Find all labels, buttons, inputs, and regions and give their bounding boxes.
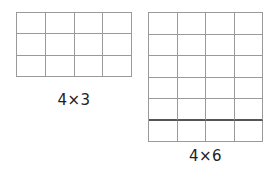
- grid-cell: [149, 56, 178, 78]
- grid-cell: [178, 35, 207, 57]
- grid-4x3-label: 4×3: [16, 91, 132, 109]
- grid-cell: [103, 34, 132, 55]
- grid-cell: [206, 35, 235, 57]
- grid-cell: [206, 13, 235, 35]
- grid-cell: [235, 13, 264, 35]
- grid-cell: [178, 99, 207, 121]
- grid-cell: [178, 78, 207, 100]
- grid-4x6-label: 4×6: [148, 147, 263, 165]
- grid-4x6: [148, 12, 263, 142]
- grid-cell: [46, 34, 75, 55]
- grid-cell: [235, 56, 264, 78]
- grid-cell: [75, 13, 104, 34]
- grid-cell: [46, 13, 75, 34]
- grid-cell: [178, 121, 207, 143]
- grid-cell: [149, 78, 178, 100]
- grid-cell: [206, 99, 235, 121]
- grid-cell: [75, 56, 104, 77]
- grid-4x3: [16, 12, 132, 77]
- grid-cell: [75, 34, 104, 55]
- grid-cell: [206, 121, 235, 143]
- grid-cell: [46, 56, 75, 77]
- grid-cell: [149, 35, 178, 57]
- grid-cell: [235, 78, 264, 100]
- grid-cell: [17, 13, 46, 34]
- grid-cell: [178, 56, 207, 78]
- grid-cell: [206, 78, 235, 100]
- grid-cell: [149, 99, 178, 121]
- grid-cell: [103, 56, 132, 77]
- grid-cell: [149, 121, 178, 143]
- grid-cell: [17, 34, 46, 55]
- grid-cell: [235, 35, 264, 57]
- grid-cell: [235, 99, 264, 121]
- grid-cell: [149, 13, 178, 35]
- grid-cell: [178, 13, 207, 35]
- grid-cell: [206, 56, 235, 78]
- grid-cell: [103, 13, 132, 34]
- grid-cell: [235, 121, 264, 143]
- grid-cell: [17, 56, 46, 77]
